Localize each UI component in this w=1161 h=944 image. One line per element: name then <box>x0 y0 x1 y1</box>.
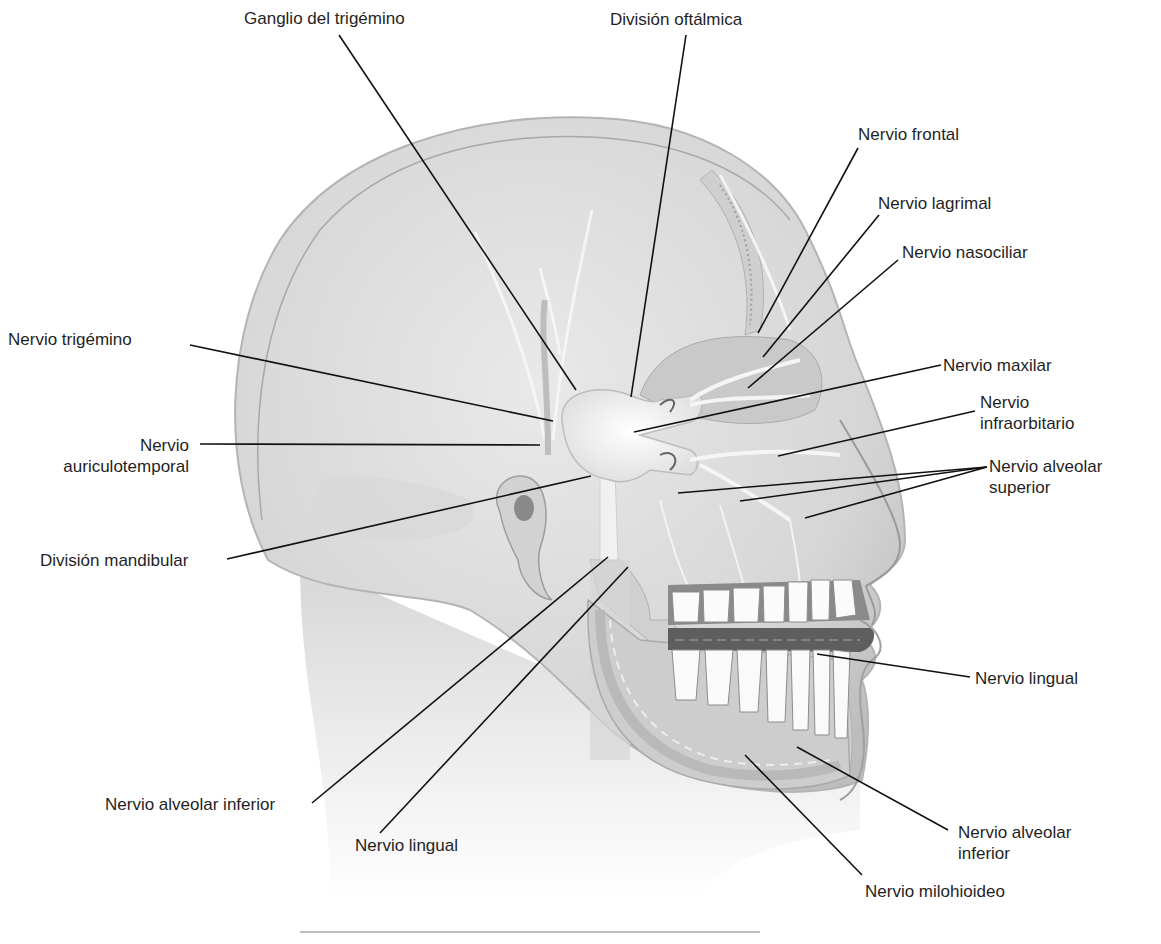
label-nervio-alveolar-superior: Nervio alveolarsuperior <box>989 456 1102 498</box>
label-nervio-lagrimal: Nervio lagrimal <box>878 193 991 214</box>
label-division-mandibular: División mandibular <box>40 550 188 571</box>
label-nervio-lingual-left: Nervio lingual <box>355 835 458 856</box>
label-nervio-milohioideo: Nervio milohioideo <box>865 881 1005 902</box>
label-nervio-lingual-right: Nervio lingual <box>975 668 1078 689</box>
label-nervio-infraorbitario: Nervioinfraorbitario <box>980 392 1075 434</box>
label-nervio-nasociliar: Nervio nasociliar <box>902 242 1028 263</box>
leader-line-auriculotemporal <box>200 444 540 445</box>
mandibular-trunk <box>600 470 618 560</box>
label-nervio-auriculotemporal: Nervioauriculotemporal <box>30 435 189 477</box>
label-nervio-alveolar-inferior-left: Nervio alveolar inferior <box>105 794 275 815</box>
label-ganglio-trigemino: Ganglio del trigémino <box>244 8 405 29</box>
label-nervio-alveolar-inferior-right: Nervio alveolarinferior <box>958 822 1071 864</box>
label-nervio-maxilar: Nervio maxilar <box>943 355 1052 376</box>
label-nervio-frontal: Nervio frontal <box>858 124 959 145</box>
bottom-divider <box>300 931 760 933</box>
label-nervio-trigemino: Nervio trigémino <box>8 329 132 350</box>
label-division-oftalmica: División oftálmica <box>610 9 742 30</box>
